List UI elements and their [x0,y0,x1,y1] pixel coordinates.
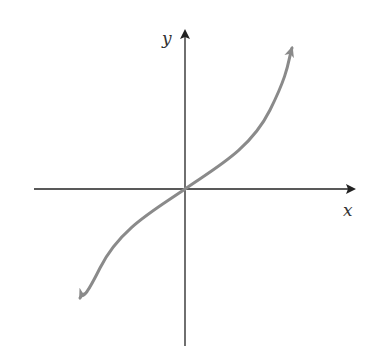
function-curve [185,48,292,189]
graph: y x [0,0,379,358]
function-curve-left [80,189,185,298]
y-axis-label: y [161,28,172,48]
x-axis-label: x [343,200,353,220]
